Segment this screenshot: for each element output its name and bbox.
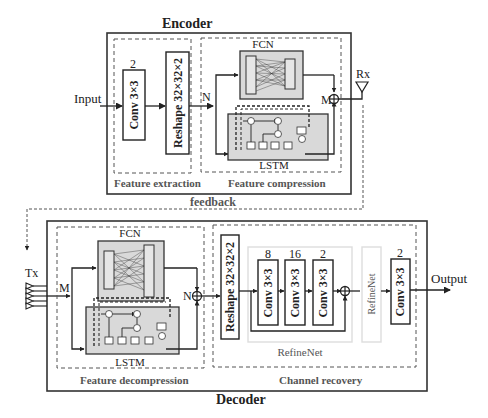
channel-recovery-label: Channel recovery [279, 374, 363, 386]
feature-decompression-block: Feature decompression M FCN [57, 227, 220, 386]
feature-decompression-label: Feature decompression [80, 374, 189, 386]
decoder: Decoder Tx Feature decompression M FCN [25, 221, 468, 407]
conv-label: Conv 3×3 [127, 80, 141, 129]
tx-antenna-array-icon [26, 283, 47, 309]
lstm-label: LSTM [259, 159, 289, 171]
refine-conv1-label: Conv 3×3 [261, 268, 275, 317]
feature-compression-label: Feature compression [228, 177, 326, 189]
refine-adder-icon [341, 287, 350, 296]
rx-antenna-icon [356, 82, 368, 92]
refinenet2-label: RefineNet [366, 273, 377, 314]
decoder-fcn-label: FCN [119, 227, 140, 239]
final-conv-label: Conv 3×3 [393, 267, 407, 316]
decoder-m-label: M [59, 281, 70, 295]
feature-extraction-label: Feature extraction [114, 177, 201, 189]
tx-label: Tx [25, 266, 38, 280]
decoder-reshape-label: Reshape 32×32×2 [223, 242, 237, 332]
adder-icon [330, 95, 339, 104]
channel-recovery-block: Channel recovery Reshape 32×32×2 RefineN… [213, 225, 416, 386]
feedback-label: feedback [190, 195, 236, 209]
conv-channels: 2 [130, 57, 136, 71]
refine-conv3-channels: 2 [320, 247, 326, 261]
rx-label: Rx [356, 67, 370, 81]
feature-extraction-block: Feature extraction 2 Conv 3×3 Reshape 32… [114, 39, 201, 189]
final-conv-channels: 2 [397, 246, 403, 260]
decoder-lstm-label: LSTM [115, 356, 145, 368]
n-label: N [202, 90, 211, 104]
refine-conv2-label: Conv 3×3 [288, 268, 302, 317]
output-label: Output [431, 271, 468, 286]
refinenet-label: RefineNet [277, 346, 322, 358]
refine-conv3-label: Conv 3×3 [316, 268, 330, 317]
reshape-label: Reshape 32×32×2 [171, 58, 185, 148]
encoder-title: Encoder [162, 16, 213, 31]
refinenet-block: RefineNet 8 Conv 3×3 16 Conv 3×3 2 Conv … [239, 247, 360, 358]
decoder-n-label: N [183, 289, 192, 303]
refine-conv2-channels: 16 [289, 247, 301, 261]
encoder: Encoder Input Feature extraction 2 Conv … [74, 16, 370, 194]
refine-conv1-channels: 8 [265, 247, 271, 261]
decoder-adder-icon [193, 292, 202, 301]
decoder-title: Decoder [216, 392, 266, 407]
input-label: Input [74, 91, 102, 106]
feature-compression-block: Feature compression N FCN [189, 38, 341, 189]
fcn-label: FCN [252, 38, 273, 50]
